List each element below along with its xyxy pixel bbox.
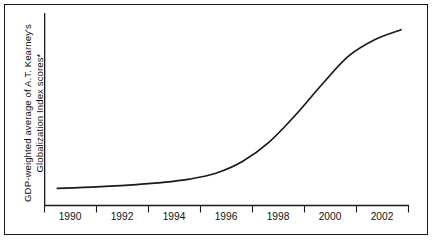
axes-and-series <box>44 13 410 218</box>
x-tick-label: 2000 <box>304 210 356 223</box>
chart-figure: GDP-weighted average of A.T. Kearney's G… <box>0 0 433 243</box>
x-tick-label: 1992 <box>96 210 148 223</box>
x-tick-label: 1998 <box>252 210 304 223</box>
plot-area <box>44 13 410 206</box>
series-line-globalization-index <box>57 30 401 189</box>
x-axis-tick-labels: 1990 1992 1994 1996 1998 2000 2002 <box>44 210 410 226</box>
x-tick-label: 1996 <box>200 210 252 223</box>
x-tick-label: 1994 <box>148 210 200 223</box>
x-tick-label: 1990 <box>44 210 96 223</box>
x-tick-label: 2002 <box>356 210 408 223</box>
